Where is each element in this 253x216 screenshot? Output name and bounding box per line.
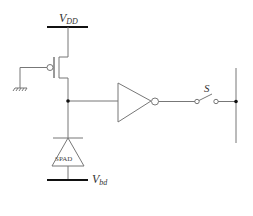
pmos-gate-bubble	[47, 65, 53, 71]
junction-node	[66, 99, 70, 103]
switch-contact-right	[214, 99, 218, 103]
vdd-label: VDD	[59, 12, 78, 26]
inverter	[118, 83, 151, 122]
spad-label: SPAD	[55, 155, 72, 163]
vbd-label: Vbd	[92, 173, 107, 187]
circuit-schematic	[0, 0, 253, 216]
ground-icon	[13, 88, 27, 91]
inverter-bubble	[152, 98, 159, 105]
junction-node	[234, 100, 238, 104]
switch-label: S	[204, 83, 210, 94]
switch-blade	[199, 94, 212, 101]
switch-contact-left	[195, 99, 199, 103]
